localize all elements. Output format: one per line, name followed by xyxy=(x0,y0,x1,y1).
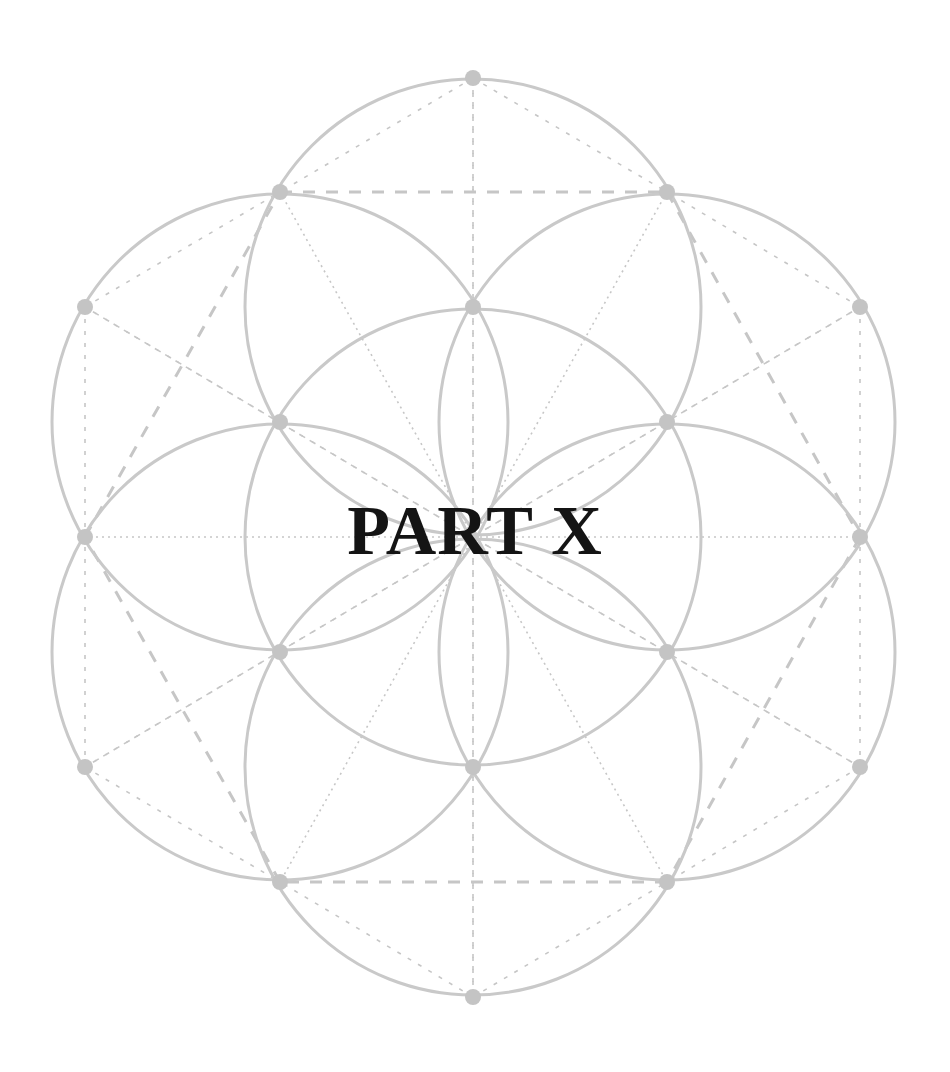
node-dot xyxy=(659,644,675,660)
node-dot xyxy=(465,759,481,775)
thin-dashed-line xyxy=(85,192,280,307)
node-dot xyxy=(852,299,868,315)
node-dot xyxy=(465,70,481,86)
node-dot xyxy=(77,299,93,315)
node-dot xyxy=(465,989,481,1005)
thin-dashed-line xyxy=(667,192,860,307)
node-dot xyxy=(465,299,481,315)
thin-dashed-line xyxy=(667,767,860,882)
node-dot xyxy=(272,644,288,660)
thin-dashed-line xyxy=(280,78,473,192)
thin-dashed-line xyxy=(280,882,473,997)
node-dot xyxy=(77,759,93,775)
node-dot xyxy=(272,874,288,890)
thin-dashed-line xyxy=(473,78,667,192)
node-dot xyxy=(272,184,288,200)
node-dot xyxy=(272,414,288,430)
node-dot xyxy=(659,184,675,200)
node-dot xyxy=(659,414,675,430)
part-title: PART X xyxy=(0,486,950,576)
node-dot xyxy=(852,759,868,775)
node-dot xyxy=(659,874,675,890)
thin-dashed-line xyxy=(85,767,280,882)
thin-dashed-line xyxy=(473,882,667,997)
